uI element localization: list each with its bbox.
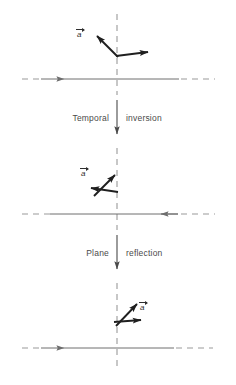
overbar-arrow-icon bbox=[80, 166, 89, 170]
transition-label-temporal: Temporal bbox=[37, 113, 109, 123]
overbar-arrow-icon bbox=[76, 27, 85, 31]
vector-a-diagonal bbox=[94, 175, 115, 196]
panel-temporal-inverted bbox=[22, 148, 215, 230]
transition-label-plane: Plane bbox=[37, 248, 109, 258]
overbar-arrow-icon bbox=[139, 300, 148, 304]
panel-plane-reflected bbox=[22, 283, 213, 366]
vector-a-horizontal bbox=[91, 188, 118, 192]
vector-label-a-panel2: a bbox=[80, 166, 89, 178]
vector-a-diagonal bbox=[97, 36, 118, 57]
panel-initial bbox=[22, 14, 215, 95]
vector-label-text: a bbox=[139, 304, 148, 312]
vector-label-a-panel3: a bbox=[139, 300, 148, 312]
vector-label-text: a bbox=[80, 170, 89, 178]
vector-label-text: a bbox=[76, 31, 85, 39]
vector-a-horizontal bbox=[116, 52, 148, 56]
vector-label-a-panel1: a bbox=[76, 27, 85, 39]
symmetry-diagram bbox=[0, 0, 236, 385]
vector-a-diagonal bbox=[116, 304, 137, 326]
transition-label-reflection: reflection bbox=[126, 248, 216, 258]
vector-a-horizontal bbox=[114, 320, 141, 322]
figure-canvas: a a a Temporal inversion Plane reflectio… bbox=[0, 0, 236, 385]
transition-label-inversion: inversion bbox=[126, 113, 216, 123]
